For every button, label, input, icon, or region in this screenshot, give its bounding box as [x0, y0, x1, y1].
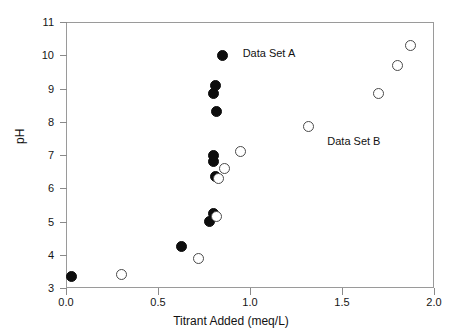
- y-tick-mark: [60, 188, 67, 189]
- y-tick-mark: [60, 222, 67, 223]
- data-point-open: [405, 40, 416, 51]
- x-tick-mark: [434, 288, 435, 295]
- data-point-filled: [210, 80, 221, 91]
- x-tick-label: 2.0: [414, 297, 454, 308]
- data-point-filled: [208, 150, 219, 161]
- data-point-open: [392, 60, 403, 71]
- x-tick-mark: [158, 288, 159, 295]
- y-tick-label: 5: [24, 217, 54, 228]
- series-label: Data Set A: [243, 48, 296, 59]
- y-tick-label: 10: [24, 50, 54, 61]
- x-tick-label: 0.0: [46, 297, 86, 308]
- x-axis-title: Titrant Added (meq/L): [0, 315, 462, 327]
- y-tick-mark: [60, 122, 67, 123]
- y-tick-mark: [60, 255, 67, 256]
- y-tick-label: 9: [24, 84, 54, 95]
- y-tick-label: 7: [24, 150, 54, 161]
- data-point-filled: [66, 271, 77, 282]
- y-tick-label: 4: [24, 250, 54, 261]
- data-point-open: [219, 163, 230, 174]
- titration-scatter-chart: pH Titrant Added (meq/L) 34567891011 0.0…: [0, 0, 462, 336]
- y-tick-mark: [60, 89, 67, 90]
- x-tick-mark: [342, 288, 343, 295]
- y-tick-mark: [60, 22, 67, 23]
- y-tick-label: 6: [24, 183, 54, 194]
- x-tick-label: 1.5: [322, 297, 362, 308]
- x-tick-label: 0.5: [138, 297, 178, 308]
- data-point-open: [193, 253, 204, 264]
- data-point-filled: [217, 50, 228, 61]
- series-label: Data Set B: [327, 136, 380, 147]
- y-tick-label: 8: [24, 117, 54, 128]
- y-tick-mark: [60, 55, 67, 56]
- y-tick-label: 3: [24, 283, 54, 294]
- x-tick-label: 1.0: [230, 297, 270, 308]
- x-tick-mark: [66, 288, 67, 295]
- plot-area: [66, 22, 434, 288]
- y-axis-title: pH: [14, 129, 26, 144]
- y-tick-label: 11: [24, 17, 54, 28]
- x-tick-mark: [250, 288, 251, 295]
- y-tick-mark: [60, 155, 67, 156]
- data-point-open: [213, 173, 224, 184]
- data-point-open: [116, 269, 127, 280]
